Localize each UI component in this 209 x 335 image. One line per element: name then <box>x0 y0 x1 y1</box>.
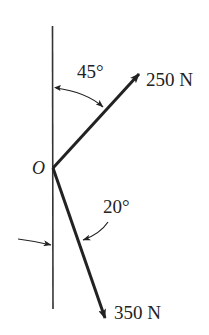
angle-arc-45 <box>56 88 103 107</box>
force-label-350n: 350 N <box>114 303 161 322</box>
angle-label-45: 45° <box>77 62 104 81</box>
origin-label: O <box>32 159 45 177</box>
force-arrow-350n <box>53 168 105 318</box>
force-arrow-250n <box>53 74 139 168</box>
force-label-250n: 250 N <box>146 70 193 89</box>
left-pointer-arrow <box>18 239 51 245</box>
angle-pointer-20 <box>83 222 108 240</box>
angle-label-20: 20° <box>103 197 130 216</box>
